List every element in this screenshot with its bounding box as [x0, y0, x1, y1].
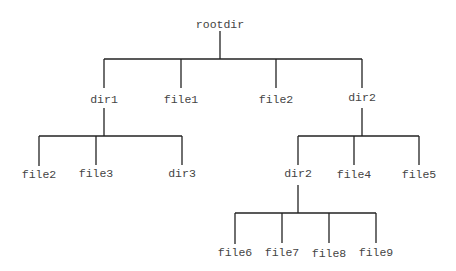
node-file8: file8 [312, 247, 347, 260]
node-file5: file5 [402, 168, 437, 181]
node-file2-top: file2 [259, 93, 294, 106]
node-file6: file6 [218, 246, 253, 259]
dir2-connectors [298, 108, 419, 165]
node-labels: rootdir dir1 file1 file2 dir2 file2 file… [22, 18, 437, 260]
node-dir3: dir3 [168, 167, 196, 180]
node-dir2: dir2 [348, 91, 376, 104]
node-file3: file3 [79, 167, 114, 180]
directory-tree-diagram: rootdir dir1 file1 file2 dir2 file2 file… [0, 0, 456, 271]
node-rootdir: rootdir [196, 18, 244, 31]
node-file9: file9 [359, 246, 394, 259]
node-file2-sub: file2 [22, 168, 57, 181]
node-dir1: dir1 [90, 93, 118, 106]
dir1-connectors [39, 108, 182, 166]
node-dir2-sub: dir2 [284, 167, 312, 180]
node-file1: file1 [164, 93, 199, 106]
root-connectors [104, 31, 362, 88]
node-file7: file7 [265, 246, 300, 259]
dir2sub-connectors [235, 185, 376, 244]
node-file4: file4 [337, 168, 372, 181]
